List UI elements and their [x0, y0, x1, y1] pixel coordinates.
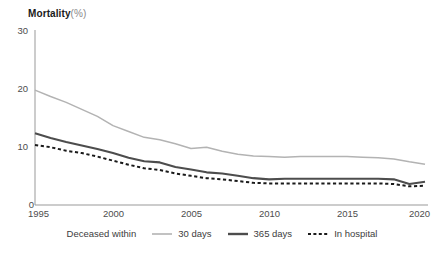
legend-item-in-hospital[interactable]: In hospital	[308, 228, 377, 239]
legend-label-365-days: 365 days	[254, 228, 293, 239]
y-tick-20: 20	[4, 83, 28, 94]
legend-item-30-days[interactable]: 30 days	[152, 228, 211, 239]
legend-line-swatch-365-days	[228, 230, 248, 238]
legend-line-swatch-30-days	[152, 230, 172, 238]
legend-line-swatch-in-hospital	[308, 230, 328, 238]
series-line-30-days	[35, 90, 425, 164]
x-tick-2005: 2005	[181, 208, 202, 219]
x-tick-2000: 2000	[103, 208, 124, 219]
y-tick-30: 30	[4, 25, 28, 36]
legend-caption: Deceased within	[67, 228, 137, 239]
x-tick-2015: 2015	[337, 208, 358, 219]
legend-label-30-days: 30 days	[178, 228, 211, 239]
chart-legend: Deceased within 30 days 365 days In hosp…	[0, 228, 444, 239]
legend-item-365-days[interactable]: 365 days	[228, 228, 293, 239]
x-tick-2010: 2010	[259, 208, 280, 219]
y-tick-10: 10	[4, 141, 28, 152]
plot-area	[0, 0, 444, 253]
legend-label-in-hospital: In hospital	[334, 228, 377, 239]
mortality-line-chart: Mortality(%) 30 20 10 0 1995 2000 2005 2…	[0, 0, 444, 253]
series-line-365-days	[35, 133, 425, 184]
series-lines	[35, 90, 425, 186]
x-tick-2020: 2020	[409, 208, 430, 219]
x-tick-1995: 1995	[28, 208, 49, 219]
series-line-in-hospital	[35, 145, 425, 186]
